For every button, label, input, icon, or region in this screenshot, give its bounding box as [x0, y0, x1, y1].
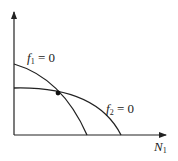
nullcline-f2 [14, 88, 121, 135]
x-axis-label: N1 [153, 139, 167, 155]
label-f1: f1 = 0 [27, 50, 55, 66]
label-f2: f2 = 0 [106, 101, 134, 117]
nullcline-diagram: f1 = 0 f2 = 0 N1 [0, 0, 178, 161]
nullcline-f1 [14, 64, 87, 135]
equilibrium-point [56, 91, 61, 96]
